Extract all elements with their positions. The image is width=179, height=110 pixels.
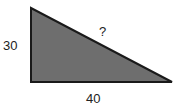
- right-triangle: [31, 8, 172, 82]
- horizontal-side-label: 40: [86, 91, 100, 106]
- triangle-diagram: 30 ? 40: [0, 0, 179, 110]
- vertical-side-label: 30: [3, 38, 17, 53]
- hypotenuse-label: ?: [99, 24, 106, 39]
